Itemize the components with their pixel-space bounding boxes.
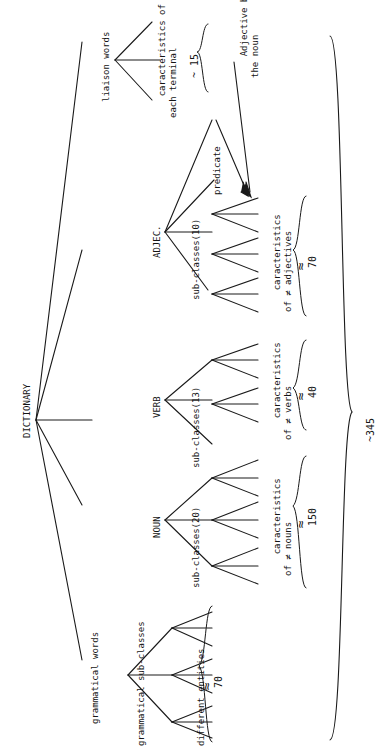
approx-sign-grammatical: ≈ [202, 682, 212, 690]
node-adjec: ADJEC. [152, 225, 162, 258]
node-grammatical-words: grammatical words [90, 632, 100, 724]
branch-noun [165, 478, 212, 566]
branch-verb [165, 360, 212, 444]
approx-sign-adjectives: ≈ [296, 262, 306, 270]
node-verb-subclasses: sub-classes(13) [191, 387, 201, 468]
count-adjectives: 70 [308, 256, 318, 268]
verb-caract-text: caracteristics of ≠ verbs [272, 342, 293, 440]
node-adjective-before-noun: Adjective before the noun [228, 0, 272, 78]
adjective-before-noun-text: Adjective before the noun [239, 0, 260, 78]
node-predicate: predicate [212, 146, 222, 195]
adjec-subclass-fans [212, 198, 258, 312]
tree-connectors [0, 0, 391, 751]
node-verb: VERB [152, 396, 162, 418]
adjective-before-noun-pointer [234, 62, 251, 197]
node-different-entities: different entities [196, 648, 206, 746]
total-count: ~345 [366, 418, 376, 442]
node-noun-subclasses: sub-classes(20) [191, 507, 201, 588]
branch-adjec [165, 120, 214, 290]
verb-subclass-fans [212, 344, 258, 422]
node-noun: NOUN [152, 516, 162, 538]
node-root: DICTIONARY [22, 384, 32, 438]
root-branches [36, 42, 92, 660]
branch-grammatical [128, 628, 172, 722]
adjec-caract-text: caracteristics of ≠ adjectives [272, 214, 293, 312]
brace-total [330, 36, 352, 740]
noun-subclass-fans [212, 460, 258, 584]
node-liaison-words: liaison words [101, 32, 111, 102]
noun-caract-text: caracteristics of ≠ nouns [272, 478, 293, 576]
node-grammatical-subclasses: grammatical sub-classes [136, 621, 146, 746]
count-nouns: 150 [308, 508, 318, 526]
diagram-canvas: DICTIONARY liaison words caracteristics … [0, 0, 391, 751]
count-liaison: ~ 15 [190, 54, 200, 78]
liaison-terminal-text: caracteristics of each terminal [157, 4, 178, 118]
node-liaison-terminal-caracteristics: caracteristics of each terminal [146, 4, 190, 118]
count-verbs: 40 [308, 386, 318, 398]
node-adjec-subclasses: sub-classes(10) [191, 219, 201, 300]
approx-sign-verbs: ≈ [296, 392, 306, 400]
approx-sign-nouns: ≈ [296, 520, 306, 528]
count-grammatical: 70 [214, 676, 224, 688]
